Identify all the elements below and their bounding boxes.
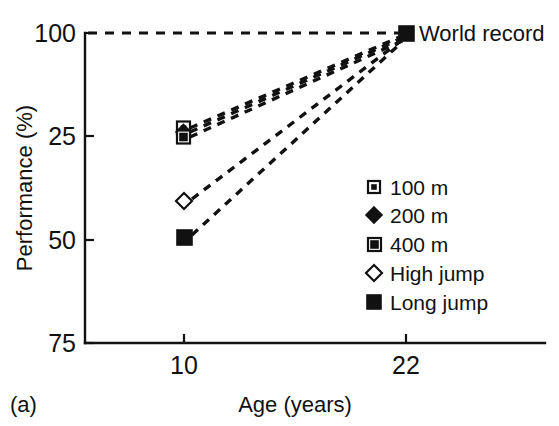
chart-legend: 100 m 200 m 400 m High jump Long jump	[366, 176, 488, 314]
legend-item-high-jump: High jump	[366, 262, 485, 285]
y-tick-label-75: 25	[48, 122, 76, 150]
legend-item-long-jump: Long jump	[367, 291, 488, 314]
world-record-annotation: World record	[419, 21, 545, 46]
filled-square-icon	[367, 295, 381, 309]
legend-label-long-jump: Long jump	[390, 291, 488, 314]
legend-label-400m: 400 m	[390, 233, 448, 256]
legend-label-200m: 200 m	[390, 204, 448, 227]
square-dot-icon	[368, 181, 380, 193]
y-tick-label-100: 100	[34, 19, 76, 47]
series-line-high-jump	[192, 40, 402, 199]
open-diamond-icon	[366, 265, 382, 281]
data-point-world-record	[399, 26, 414, 41]
legend-item-400m: 400 m	[368, 233, 448, 256]
y-tick-label-50: 50	[48, 226, 76, 254]
x-tick-label-10: 10	[170, 351, 198, 379]
x-axis-title: Age (years)	[238, 392, 352, 417]
data-point-400m	[177, 131, 190, 144]
legend-label-100m: 100 m	[390, 176, 448, 199]
series-line-400m	[190, 41, 402, 137]
square-filled-center-icon	[368, 238, 381, 251]
x-tick-label-22: 22	[392, 351, 420, 379]
legend-item-200m: 200 m	[366, 204, 448, 227]
y-axis-title: Performance (%)	[12, 105, 37, 271]
filled-diamond-icon	[366, 207, 382, 223]
figure-panel-a: 100 25 50 75 10 22 Performance (%) Age (…	[0, 0, 559, 426]
series-line-100m	[190, 36, 402, 128]
data-point-long-jump	[177, 230, 192, 245]
performance-vs-age-chart: 100 25 50 75 10 22 Performance (%) Age (…	[0, 0, 559, 426]
legend-item-100m: 100 m	[368, 176, 448, 199]
axis-tick-labels: 100 25 50 75 10 22	[34, 19, 420, 379]
series-line-long-jump	[192, 42, 402, 235]
data-points-age-10	[176, 122, 192, 246]
series-lines	[190, 36, 402, 235]
series-line-200m	[190, 38, 402, 132]
panel-label: (a)	[10, 392, 37, 417]
data-point-high-jump	[176, 193, 192, 209]
y-tick-label-25: 75	[48, 329, 76, 357]
legend-label-high-jump: High jump	[390, 262, 485, 285]
